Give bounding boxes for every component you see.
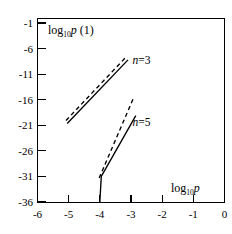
series-group-n5 — [99, 98, 136, 202]
y-axis-ticks — [38, 23, 46, 202]
x-tick-label: -2 — [158, 208, 167, 220]
series-n3-dashed — [66, 56, 127, 120]
x-tick-label: -3 — [126, 208, 136, 220]
x-axis-title-variable: p — [193, 181, 200, 195]
y-tick-label: -36 — [18, 196, 33, 208]
y-tick-label: -16 — [18, 94, 33, 106]
y-axis-title-prefix: log — [48, 23, 63, 37]
y-tick-label: -26 — [18, 145, 33, 157]
x-axis-title: log10p — [171, 181, 200, 197]
chart-figure: -1 -6 -11 -16 -21 -26 -31 -36 -6 -5 -4 -… — [0, 0, 232, 234]
y-tick-label: -31 — [18, 170, 33, 182]
annotation-n5: n=5 — [133, 116, 151, 128]
x-tick-label: 0 — [222, 208, 228, 220]
plot-area: -1 -6 -11 -16 -21 -26 -31 -36 -6 -5 -4 -… — [0, 0, 232, 234]
y-axis-title-variable: p — [70, 23, 77, 37]
x-axis-tick-labels: -6 -5 -4 -3 -2 -1 0 — [33, 208, 228, 220]
y-axis-tick-labels: -1 -6 -11 -16 -21 -26 -31 -36 — [18, 17, 33, 208]
annotation-n5-value: =5 — [138, 116, 150, 128]
x-axis-ticks — [38, 195, 225, 203]
series-group-n3 — [66, 56, 128, 123]
annotation-n3-value: =3 — [138, 54, 150, 66]
annotation-n3: n=3 — [133, 54, 151, 66]
x-tick-label: -5 — [64, 208, 74, 220]
y-tick-label: -1 — [24, 17, 33, 29]
y-tick-label: -11 — [19, 68, 33, 80]
series-n3-solid — [67, 60, 128, 124]
y-tick-label: -6 — [24, 43, 34, 55]
axis-frame — [38, 19, 225, 203]
x-tick-label: -4 — [95, 208, 105, 220]
x-axis-title-prefix: log — [171, 181, 186, 195]
y-tick-label: -21 — [18, 119, 33, 131]
series-n5-solid — [100, 116, 136, 203]
series-n5-dashed — [99, 98, 133, 178]
x-tick-label: -1 — [189, 208, 198, 220]
y-axis-title: log10p (1) — [48, 23, 94, 39]
x-tick-label: -6 — [33, 208, 43, 220]
y-axis-title-suffix: (1) — [77, 23, 94, 37]
